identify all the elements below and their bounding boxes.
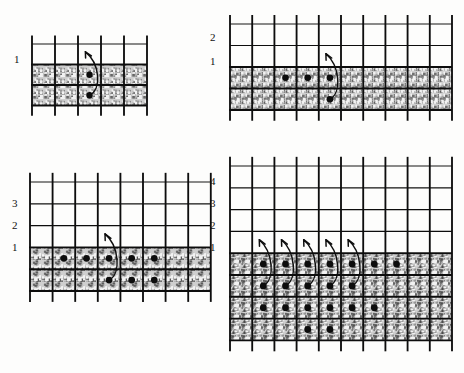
panel-bottom-right-dot: [393, 261, 400, 268]
panel-bottom-left-dot: [151, 255, 158, 262]
panel-bottom-left: 3 2 1: [8, 172, 223, 312]
panel-bottom-right-grid: [208, 158, 458, 363]
panel-bottom-right-dot: [260, 261, 267, 268]
panel-bottom-right-dot: [327, 326, 334, 333]
panel-bottom-right-dot: [282, 304, 289, 311]
panel-bottom-right-axis-label-4: 4: [210, 176, 216, 187]
panel-top-left-dot: [86, 72, 92, 78]
panel-bottom-right-dot: [371, 261, 378, 268]
panel-top-right: 2 1: [208, 16, 458, 128]
panel-top-right-axis-label-1: 1: [210, 56, 216, 67]
panel-bottom-right-dot: [304, 261, 311, 268]
panel-bottom-right-dot: [282, 261, 289, 268]
panel-bottom-left-dot: [128, 277, 135, 284]
panel-top-right-grid: [208, 16, 458, 128]
panel-bottom-right-dot: [260, 304, 267, 311]
panel-bottom-left-axis-label-2: 2: [12, 220, 18, 231]
panel-bottom-right-dot: [349, 261, 356, 268]
panel-bottom-left-dot: [151, 277, 158, 284]
panel-bottom-right-dot: [327, 261, 334, 268]
panel-top-right-dot: [282, 74, 289, 81]
panel-top-right-dot: [327, 74, 334, 81]
panel-bottom-left-axis-label-3: 3: [12, 198, 18, 209]
panel-bottom-left-dot: [83, 255, 90, 262]
panel-bottom-right-axis-label-3: 3: [210, 198, 216, 209]
panel-top-right-axis-label-2: 2: [210, 32, 216, 43]
panel-bottom-right-axis-label-1: 1: [210, 242, 216, 253]
panel-bottom-left-grid: [8, 172, 223, 312]
panel-bottom-right-dot: [327, 304, 334, 311]
panel-bottom-left-dot: [61, 255, 68, 262]
panel-bottom-right: 4 3 2 1: [208, 158, 458, 363]
panel-top-left-axis-label-1: 1: [14, 54, 20, 65]
figure-canvas: 1 2 1 3 2 1 4 3 2 1: [0, 0, 464, 373]
panel-bottom-left-dot: [128, 255, 135, 262]
panel-bottom-right-dot: [304, 304, 311, 311]
panel-bottom-right-axis-label-2: 2: [210, 220, 216, 231]
panel-bottom-right-dot: [304, 326, 311, 333]
panel-bottom-left-axis-label-1: 1: [12, 242, 18, 253]
panel-bottom-right-dot: [349, 304, 356, 311]
panel-top-right-dot: [304, 74, 311, 81]
panel-top-left: 1: [10, 22, 160, 127]
panel-bottom-right-dot: [371, 304, 378, 311]
panel-top-left-grid: [10, 22, 160, 127]
panel-bottom-left-dot: [106, 255, 113, 262]
